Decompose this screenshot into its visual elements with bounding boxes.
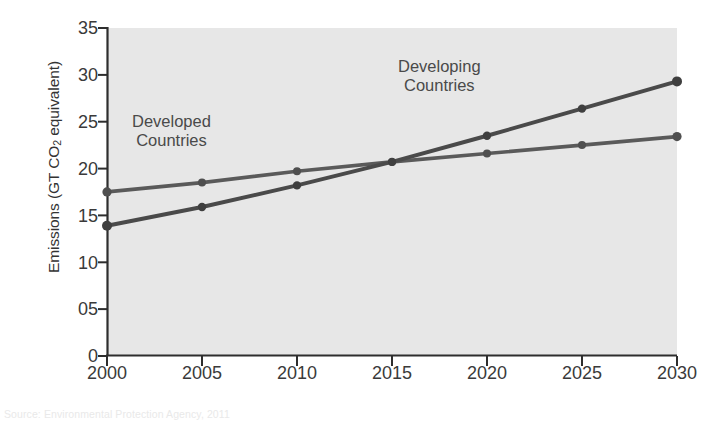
- x-tick-label: 2015: [352, 364, 432, 382]
- x-tick-label: 2005: [162, 364, 242, 382]
- x-tick-label: 2010: [257, 364, 337, 382]
- series-label-developed-line1: Developed: [132, 112, 211, 131]
- series-label-developed-countries: Developed Countries: [132, 112, 211, 151]
- series-label-developing-countries: Developing Countries: [398, 57, 481, 96]
- series-label-developing-line1: Developing: [398, 57, 481, 76]
- x-tick-label: 2025: [542, 364, 622, 382]
- x-tick-label: 2030: [637, 364, 701, 382]
- x-tick-label: 2020: [447, 364, 527, 382]
- source-caption: Source: Environmental Protection Agency,…: [4, 408, 230, 420]
- series-label-developed-line2: Countries: [132, 131, 211, 150]
- series-label-developing-line2: Countries: [398, 76, 481, 95]
- x-tick-label: 2000: [67, 364, 147, 382]
